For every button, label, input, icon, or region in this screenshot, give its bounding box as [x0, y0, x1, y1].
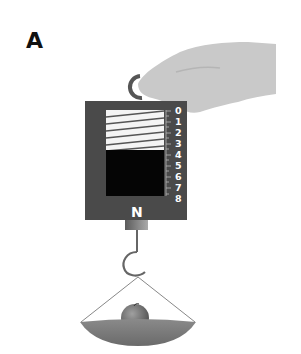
- scale-numbers: 0 1 2 3 4 5 6 7 8: [175, 105, 182, 204]
- spring-window: [106, 110, 164, 196]
- indicator-block: [106, 150, 164, 196]
- hook-icon: [124, 252, 145, 275]
- bottom-connector: [125, 220, 148, 252]
- tick-5: 5: [175, 160, 182, 171]
- pan: [80, 319, 196, 346]
- tick-4: 4: [175, 149, 182, 160]
- tick-2: 2: [175, 127, 182, 138]
- tick-1: 1: [175, 116, 182, 127]
- tick-3: 3: [175, 138, 182, 149]
- tick-6: 6: [175, 171, 182, 182]
- spring-scale-diagram: 0 1 2 3 4 5 6 7 8 N: [0, 0, 301, 354]
- tick-0: 0: [175, 105, 182, 116]
- tick-8: 8: [175, 193, 182, 204]
- tick-7: 7: [175, 182, 182, 193]
- unit-label: N: [131, 204, 143, 220]
